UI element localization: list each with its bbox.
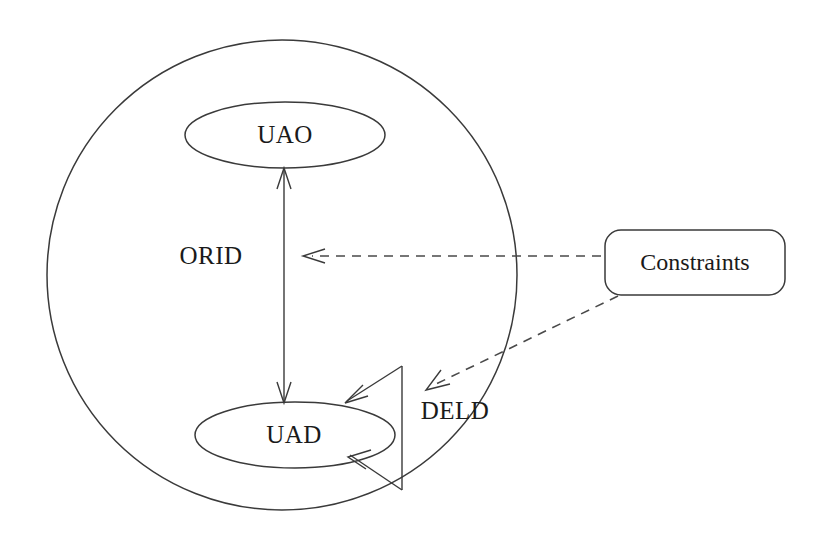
deld-label: DELD [421,397,490,424]
diagram-svg: UAO UAD ORID DELD Constraints [0,0,824,554]
uao-label: UAO [257,121,313,148]
uad-label: UAD [266,421,322,448]
orid-label: ORID [179,242,242,269]
constraints-label: Constraints [640,249,749,275]
uao-uad-bidirectional-arrow[interactable] [277,168,291,403]
diagram-canvas: UAO UAD ORID DELD Constraints [0,0,824,554]
constraints-to-deld-dashed-arrow[interactable] [426,296,618,390]
constraints-to-orid-dashed-arrow[interactable] [303,249,601,263]
